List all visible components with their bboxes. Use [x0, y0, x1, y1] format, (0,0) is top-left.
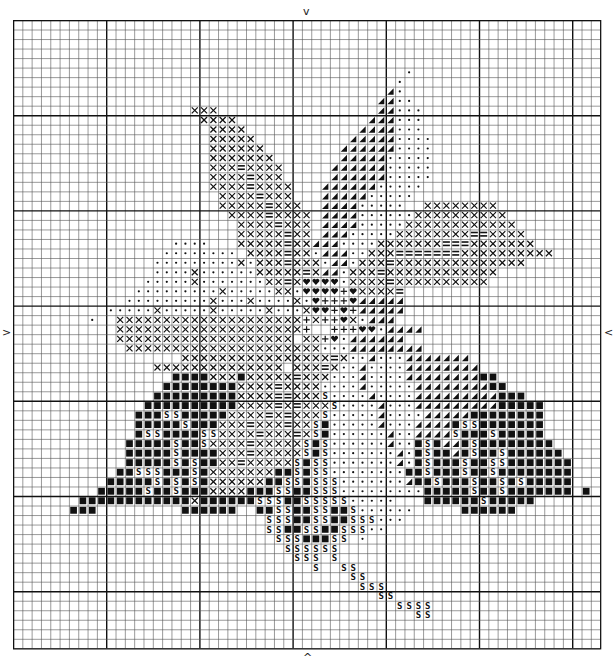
- stitch-half-triangle-icon: [322, 202, 328, 209]
- stitch-filled-square-icon: [117, 497, 124, 504]
- stitch-half-triangle-icon: [341, 164, 347, 171]
- stitch-s-letter-icon: S: [313, 544, 318, 554]
- stitch-filled-square-icon: [546, 450, 553, 457]
- stitch-dot-icon: [408, 490, 410, 492]
- stitch-filled-square-icon: [154, 440, 161, 447]
- stitch-cross-icon: [322, 355, 328, 361]
- stitch-cross-icon: [518, 241, 524, 247]
- stitch-dot-icon: [259, 281, 261, 283]
- stitch-half-triangle-icon: [359, 145, 365, 152]
- stitch-half-triangle-icon: [387, 336, 393, 343]
- svg-text:S: S: [323, 544, 328, 554]
- stitch-filled-square-icon: [508, 402, 515, 409]
- stitch-plus-icon: [331, 317, 337, 323]
- stitch-half-triangle-icon: [443, 374, 449, 381]
- stitch-cross-icon: [462, 250, 468, 256]
- svg-text:S: S: [425, 448, 430, 458]
- stitch-half-triangle-icon: [331, 193, 337, 200]
- stitch-filled-square-icon: [135, 488, 142, 495]
- stitch-cross-icon: [220, 374, 226, 380]
- stitch-cross-icon: [266, 155, 272, 161]
- stitch-filled-square-icon: [126, 459, 133, 466]
- stitch-cross-icon: [257, 479, 263, 485]
- stitch-half-triangle-icon: [387, 307, 393, 314]
- stitch-half-triangle-icon: [341, 183, 347, 190]
- stitch-cross-icon: [304, 231, 310, 237]
- stitch-filled-square-icon: [527, 459, 534, 466]
- stitch-s-letter-icon: S: [332, 486, 337, 496]
- stitch-dot-icon: [231, 252, 233, 254]
- stitch-cross-icon: [471, 279, 477, 285]
- stitch-filled-square-icon: [173, 497, 180, 504]
- stitch-half-triangle-icon: [425, 374, 431, 381]
- stitch-filled-square-icon: [154, 393, 161, 400]
- svg-text:S: S: [155, 467, 160, 477]
- stitch-dot-icon: [352, 443, 354, 445]
- svg-text:S: S: [183, 420, 188, 430]
- stitch-filled-square-icon: [303, 459, 310, 466]
- stitch-cross-icon: [415, 241, 421, 247]
- stitch-half-triangle-icon: [378, 145, 384, 152]
- stitch-cross-icon: [387, 288, 393, 294]
- stitch-cross-icon: [443, 279, 449, 285]
- stitch-filled-square-icon: [434, 469, 441, 476]
- stitch-cross-icon: [145, 336, 151, 342]
- stitch-filled-square-icon: [508, 507, 515, 514]
- stitch-cross-icon: [285, 336, 291, 342]
- stitch-dot-icon: [380, 205, 382, 207]
- stitch-cross-icon: [313, 374, 319, 380]
- stitch-filled-square-icon: [294, 516, 301, 523]
- stitch-half-triangle-icon: [350, 212, 356, 219]
- stitch-cross-icon: [509, 231, 515, 237]
- stitch-cross-icon: [518, 260, 524, 266]
- stitch-cross-icon: [257, 326, 263, 332]
- stitch-half-triangle-icon: [490, 402, 496, 409]
- stitch-equals-icon: [266, 203, 273, 208]
- stitch-filled-square-icon: [135, 459, 142, 466]
- stitch-filled-square-icon: [518, 431, 525, 438]
- svg-text:S: S: [332, 477, 337, 487]
- stitch-dot-icon: [371, 404, 373, 406]
- stitch-dot-icon: [352, 481, 354, 483]
- stitch-cross-icon: [192, 336, 198, 342]
- stitch-cross-icon: [406, 241, 412, 247]
- stitch-filled-square-icon: [527, 488, 534, 495]
- stitch-filled-square-icon: [518, 469, 525, 476]
- stitch-dot-icon: [408, 109, 410, 111]
- stitch-cross-icon: [220, 336, 226, 342]
- stitch-dot-icon: [222, 300, 224, 302]
- svg-text:S: S: [332, 496, 337, 506]
- stitch-half-triangle-icon: [490, 393, 496, 400]
- stitch-dot-icon: [175, 271, 177, 273]
- stitch-dot-icon: [380, 471, 382, 473]
- stitch-s-letter-icon: S: [145, 467, 150, 477]
- stitch-cross-icon: [220, 345, 226, 351]
- stitch-filled-square-icon: [452, 497, 459, 504]
- stitch-cross-icon: [210, 107, 216, 113]
- stitch-heart-icon: [312, 298, 319, 304]
- stitch-s-letter-icon: S: [323, 467, 328, 477]
- stitch-filled-square-icon: [163, 459, 170, 466]
- stitch-s-letter-icon: S: [323, 458, 328, 468]
- stitch-s-letter-icon: S: [313, 525, 318, 535]
- stitch-cross-icon: [257, 441, 263, 447]
- stitch-cross-icon: [257, 155, 263, 161]
- stitch-half-triangle-icon: [359, 193, 365, 200]
- stitch-dot-icon: [399, 519, 401, 521]
- stitch-cross-icon: [313, 355, 319, 361]
- stitch-dot-icon: [380, 376, 382, 378]
- stitch-filled-square-icon: [518, 497, 525, 504]
- stitch-cross-icon: [257, 336, 263, 342]
- stitch-dot-icon: [389, 500, 391, 502]
- stitch-cross-icon: [266, 355, 272, 361]
- stitch-cross-icon: [434, 222, 440, 228]
- stitch-s-letter-icon: S: [285, 505, 290, 515]
- stitch-cross-icon: [238, 403, 244, 409]
- stitch-cross-icon: [481, 260, 487, 266]
- stitch-dot-icon: [417, 147, 419, 149]
- stitch-half-triangle-icon: [369, 126, 375, 133]
- stitch-filled-square-icon: [210, 497, 217, 504]
- stitch-filled-square-icon: [490, 488, 497, 495]
- stitch-s-letter-icon: S: [313, 486, 318, 496]
- stitch-filled-square-icon: [480, 488, 487, 495]
